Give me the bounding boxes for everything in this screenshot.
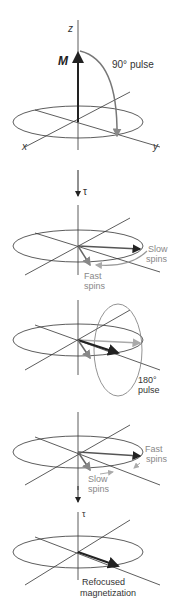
- y-axis: [35, 110, 160, 147]
- panel-refocused: [13, 512, 160, 585]
- 180-pulse-ellipse: [94, 304, 142, 396]
- fast-spins-label-4: Fast: [145, 444, 163, 454]
- slow-spins-label-4: Slow: [88, 474, 108, 484]
- pulse-180-label: 180°: [138, 375, 157, 385]
- spin-echo-diagram: z M 90° pulse x y τ Slow spins Fast spin…: [0, 0, 185, 600]
- pulse-90-label: 90° pulse: [112, 59, 154, 70]
- fast-spins-label: Fast: [84, 271, 102, 281]
- slow-spins-label-4b: spins: [88, 484, 110, 494]
- refocused-label: Refocused: [82, 577, 125, 587]
- fast-spins-label-2: spins: [84, 281, 106, 291]
- refocused-label-2: magnetization: [80, 588, 136, 598]
- fast-spins-label-4b: spins: [146, 454, 168, 464]
- panel-dephasing: [13, 205, 160, 275]
- z-label: z: [67, 23, 73, 34]
- refocused-vector: [78, 552, 118, 566]
- slow-spins-label-2: spins: [146, 254, 168, 264]
- pulse-180-label-2: pulse: [138, 385, 160, 395]
- m-label: M: [58, 54, 69, 68]
- x-label: x: [21, 141, 28, 152]
- y-label: y: [152, 141, 159, 152]
- panel-rephasing: [13, 412, 160, 490]
- tau-label-2: τ: [82, 509, 86, 519]
- slow-spins-label: Slow: [148, 244, 168, 254]
- tau-label-1: τ: [83, 186, 87, 197]
- panel-90-pulse: [13, 20, 160, 150]
- slow-spin-vector: [78, 246, 140, 249]
